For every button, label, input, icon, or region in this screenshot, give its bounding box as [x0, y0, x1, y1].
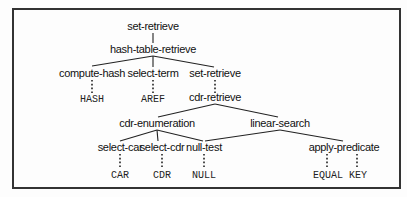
node-cdr-enumeration: cdr-enumeration — [119, 117, 195, 129]
edge-cdr-enumeration-select-cdr — [157, 130, 158, 141]
node-set-retrieve-child: set-retrieve — [189, 67, 241, 79]
node-hash-table-retrieve: hash-table-retrieve — [110, 43, 196, 55]
node-select-term: select-term — [127, 67, 178, 79]
edge-linear-search-apply-predicate — [280, 130, 343, 141]
edge-htr-set-retrieve — [153, 56, 214, 67]
leaf-equal: EQUAL — [313, 170, 343, 181]
edge-cdr-retrieve-cdr-enumeration — [158, 104, 215, 117]
node-linear-search: linear-search — [250, 117, 310, 129]
node-set-retrieve-root: set-retrieve — [127, 20, 179, 32]
leaf-key: KEY — [349, 170, 367, 181]
tree-diagram: set-retrieve hash-table-retrieve compute… — [0, 0, 407, 197]
edge-cdr-enumeration-null-test — [157, 130, 203, 141]
node-cdr-retrieve: cdr-retrieve — [189, 91, 241, 103]
edge-linear-search-null-test — [205, 130, 280, 141]
edge-cdr-retrieve-linear-search — [215, 104, 278, 117]
edge-htr-compute-hash — [92, 56, 153, 66]
leaf-null: NULL — [192, 170, 216, 181]
leaf-cdr: CDR — [153, 170, 171, 181]
node-select-cdr: select-cdr — [140, 141, 185, 153]
leaf-car: CAR — [111, 170, 129, 181]
leaf-hash: HASH — [80, 94, 104, 105]
node-select-car: select-car — [98, 141, 143, 153]
node-apply-predicate: apply-predicate — [309, 141, 380, 153]
node-compute-hash: compute-hash — [59, 67, 125, 79]
edge-cdr-enumeration-select-car — [120, 130, 157, 141]
leaf-aref: AREF — [141, 94, 165, 105]
node-null-test: null-test — [186, 141, 222, 153]
